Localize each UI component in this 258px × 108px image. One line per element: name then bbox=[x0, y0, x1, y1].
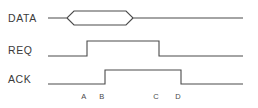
time-marker-d: D bbox=[175, 92, 181, 101]
signal-label-ack: ACK bbox=[8, 73, 31, 85]
signal-label-req: REQ bbox=[8, 44, 33, 56]
signal-label-data: DATA bbox=[8, 12, 37, 24]
time-marker-b: B bbox=[99, 92, 104, 101]
waveform-data bbox=[48, 11, 243, 25]
time-marker-c: C bbox=[153, 92, 159, 101]
waveform-ack bbox=[48, 70, 243, 84]
time-marker-a: A bbox=[81, 92, 86, 101]
timing-diagram: DATA REQ ACK A B C D bbox=[0, 0, 258, 108]
waveform-canvas: DATA REQ ACK A B C D bbox=[0, 0, 258, 108]
waveform-req bbox=[48, 41, 243, 56]
